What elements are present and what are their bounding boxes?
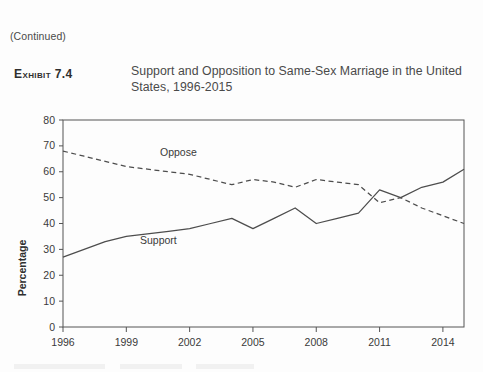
line-chart: Percentage 01020304050607080 19961999200… <box>0 108 483 348</box>
chart-svg: Percentage 01020304050607080 19961999200… <box>0 108 483 348</box>
x-tick-label: 1999 <box>115 336 139 348</box>
y-tick-label: 0 <box>49 321 55 333</box>
y-tick-label: 50 <box>43 191 55 203</box>
x-tick-label: 1996 <box>51 336 75 348</box>
exhibit-title: Support and Opposition to Same-Sex Marri… <box>131 64 471 95</box>
page-canvas: (Continued) Exhibit 7.4 Support and Oppo… <box>0 0 483 372</box>
footer-source-smudge <box>14 364 254 369</box>
y-tick-label: 60 <box>43 165 55 177</box>
x-tick-label: 2014 <box>431 336 455 348</box>
y-axis-ticks: 01020304050607080 <box>43 114 63 333</box>
y-tick-label: 30 <box>43 243 55 255</box>
series-line-support <box>63 169 464 257</box>
series-line-oppose <box>63 151 464 223</box>
y-tick-label: 80 <box>43 114 55 126</box>
continued-note: (Continued) <box>10 30 66 42</box>
y-axis-title: Percentage <box>16 240 28 297</box>
x-tick-label: 2002 <box>178 336 202 348</box>
x-tick-label: 2008 <box>305 336 329 348</box>
y-tick-label: 10 <box>43 295 55 307</box>
y-tick-label: 20 <box>43 269 55 281</box>
series-label-support: Support <box>140 234 177 246</box>
x-axis-ticks: 1996199920022005200820112014 <box>51 327 454 348</box>
y-axis-title-text: Percentage <box>16 240 28 297</box>
x-tick-label: 2005 <box>241 336 265 348</box>
exhibit-label: Exhibit 7.4 <box>14 67 73 81</box>
series-label-oppose: Oppose <box>160 146 197 158</box>
y-tick-label: 40 <box>43 217 55 229</box>
y-tick-label: 70 <box>43 139 55 151</box>
x-tick-label: 2011 <box>368 336 391 348</box>
